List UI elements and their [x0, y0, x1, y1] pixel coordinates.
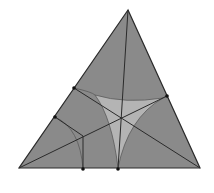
point-on-AB-lower: [53, 115, 57, 119]
triangle-cevian-diagram: [0, 0, 214, 193]
point-on-AB-upper: [72, 86, 76, 90]
point-on-BC-right: [116, 167, 120, 171]
main-triangle: [19, 10, 200, 168]
point-on-BC-left: [81, 167, 85, 171]
point-on-AC: [165, 94, 169, 98]
